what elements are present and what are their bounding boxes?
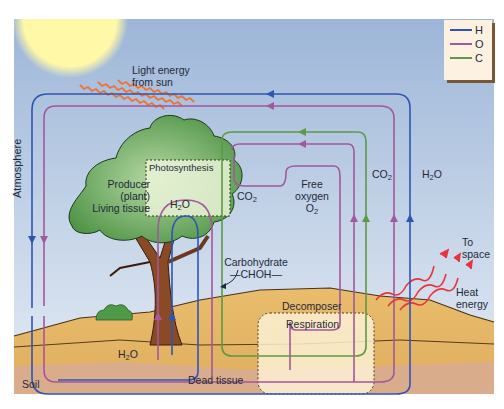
legend-line-c [450, 57, 472, 59]
legend-label-o: O [475, 38, 484, 50]
free-oxygen-label: Free oxygen O2 [290, 178, 334, 218]
h2o-soil-label: H2O [118, 348, 138, 364]
legend: H O C [444, 20, 492, 80]
legend-label-c: C [475, 52, 483, 64]
dead-tissue-label: Dead tissue [188, 374, 243, 386]
respiration-label: Respiration [286, 318, 339, 330]
carbon-oxygen-hydrogen-cycle-diagram: H O C Light energyfrom sun Atmosphere Pr… [0, 0, 504, 409]
soil-label: Soil [22, 378, 40, 390]
legend-label-h: H [475, 24, 483, 36]
legend-item-h: H [450, 24, 483, 36]
h2o-tree-label: H2O [170, 198, 190, 214]
decomposer-label: Decomposer [282, 300, 342, 312]
legend-item-o: O [450, 38, 484, 50]
legend-line-h [450, 29, 472, 31]
to-space-label: Tospace [462, 236, 490, 260]
photosynthesis-label: Photosynthesis [149, 162, 213, 174]
carbohydrate-label: Carbohydrate —CHOH— [216, 256, 296, 280]
atmosphere-label: Atmosphere [11, 139, 23, 198]
legend-item-c: C [450, 52, 483, 64]
legend-line-o [450, 43, 472, 45]
co2-right-label: CO2 [372, 168, 392, 184]
h2o-right-label: H2O [422, 168, 442, 184]
heat-energy-label: Heatenergy [456, 286, 488, 310]
producer-label: Producer (plant) Living tissue [78, 178, 150, 214]
co2-leaf-label: CO2 [237, 190, 257, 206]
light-energy-label: Light energyfrom sun [132, 64, 190, 88]
